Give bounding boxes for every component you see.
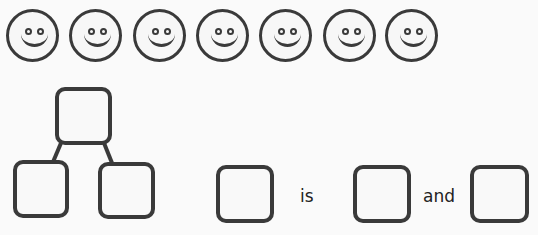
word-is: is <box>300 186 314 206</box>
word-and: and <box>423 186 455 206</box>
answer-box-part2[interactable] <box>470 165 529 223</box>
part-box-left[interactable] <box>13 160 69 218</box>
answer-box-whole[interactable] <box>216 165 274 223</box>
part-box-right[interactable] <box>98 162 155 219</box>
answer-box-part1[interactable] <box>353 165 411 223</box>
whole-box[interactable] <box>55 87 112 145</box>
